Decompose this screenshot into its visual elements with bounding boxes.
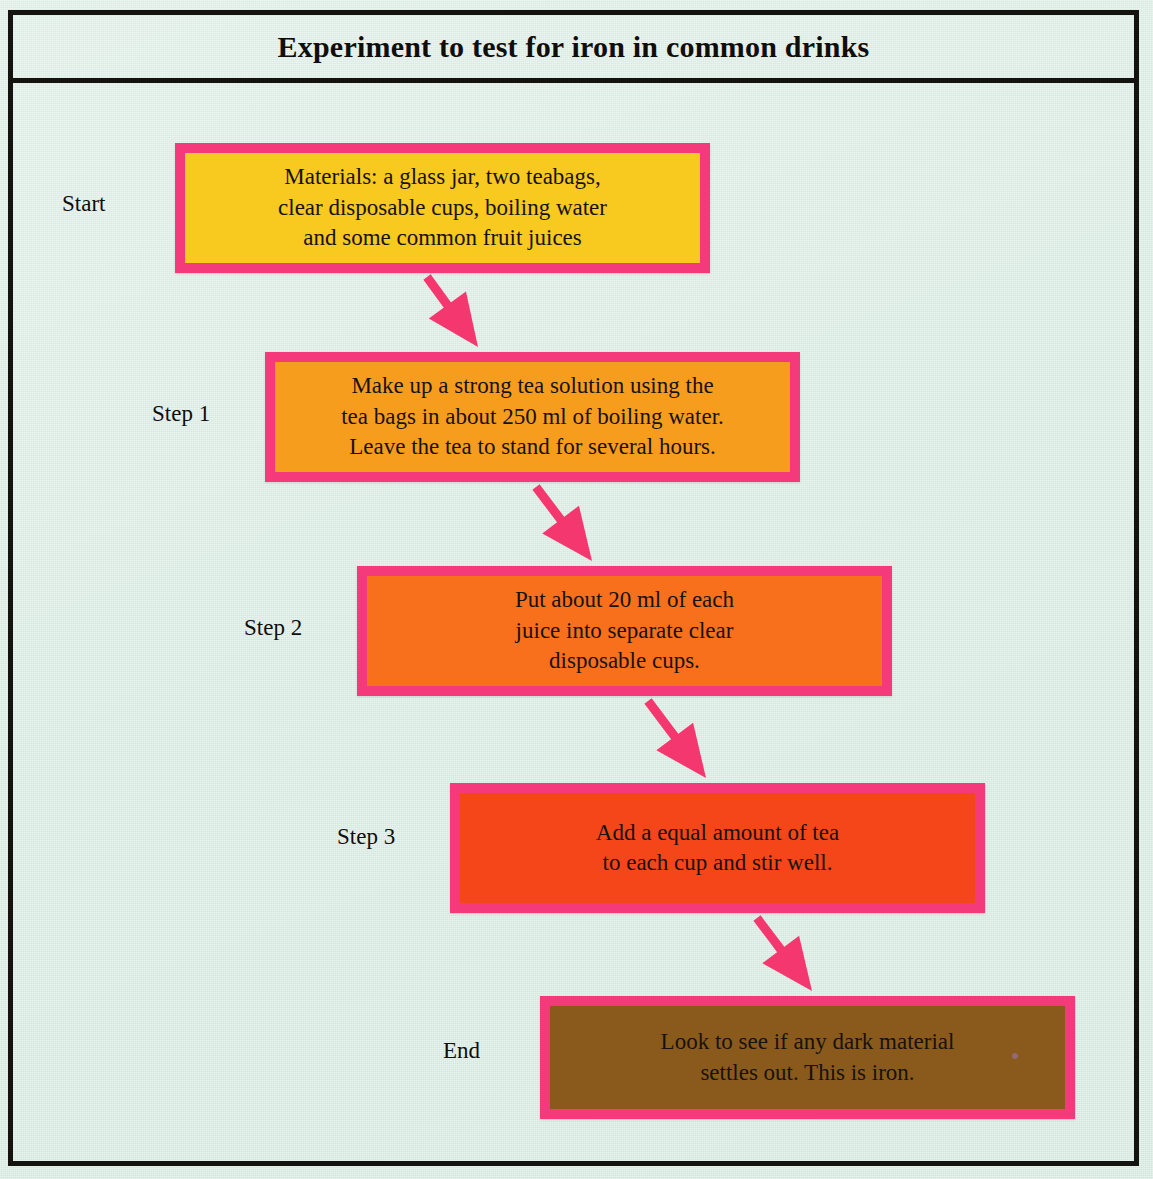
smudge-artifact [1012,1053,1018,1059]
flow-box-text: Put about 20 ml of each juice into separ… [505,581,744,680]
flow-box-text: Materials: a glass jar, two teabags, cle… [268,158,617,257]
flow-box-text: Look to see if any dark material settles… [651,1023,965,1092]
step-label-start: Start [62,191,105,217]
page-title: Experiment to test for iron in common dr… [278,30,870,64]
flow-box-step-1: Make up a strong tea solution using the … [265,352,800,482]
flow-box-step-3: Add a equal amount of tea to each cup an… [450,783,985,913]
flowchart-page: Experiment to test for iron in common dr… [0,0,1153,1179]
flow-box-step-2: Put about 20 ml of each juice into separ… [357,566,892,696]
step-label-step-3: Step 3 [337,824,395,850]
flow-box-text: Add a equal amount of tea to each cup an… [586,814,849,883]
title-band: Experiment to test for iron in common dr… [13,15,1134,83]
flow-box-text: Make up a strong tea solution using the … [331,367,734,466]
step-label-step-2: Step 2 [244,615,302,641]
flow-box-end: Look to see if any dark material settles… [540,996,1075,1119]
step-label-end: End [443,1038,480,1064]
step-label-step-1: Step 1 [152,401,210,427]
flow-box-start: Materials: a glass jar, two teabags, cle… [175,143,710,273]
